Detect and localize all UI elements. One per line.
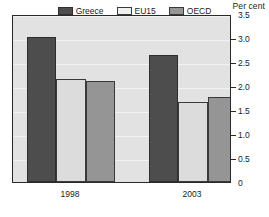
legend-swatch-icon-eu15 (117, 7, 132, 15)
bar-eu15-1998 (56, 79, 85, 182)
chart-figure: Per cent 00.51.01.52.02.53.03.5 19982003… (0, 0, 269, 217)
bar-greece-2003 (149, 55, 178, 182)
legend-swatch-icon-oecd (169, 7, 184, 15)
y-axis-tick (231, 63, 236, 64)
y-axis-tick (231, 111, 236, 112)
legend-swatch-icon-greece (58, 7, 73, 15)
bar-oecd-1998 (86, 81, 115, 182)
gridline (13, 16, 230, 17)
y-axis-label: 1.0 (238, 130, 250, 140)
y-axis-label: 2.5 (238, 58, 250, 68)
x-axis-label-2003: 2003 (183, 189, 202, 199)
plot-area (12, 15, 231, 183)
y-axis-label: 0 (238, 178, 243, 188)
y-axis-tick (231, 87, 236, 88)
bar-eu15-2003 (178, 102, 207, 182)
y-axis-tick (231, 135, 236, 136)
y-axis-label: 3.0 (238, 34, 250, 44)
bar-greece-1998 (27, 37, 56, 182)
y-axis-label: 1.5 (238, 106, 250, 116)
y-axis-label: 0.5 (238, 154, 250, 164)
bar-oecd-2003 (208, 97, 231, 182)
y-axis-tick (231, 39, 236, 40)
y-axis-tick (231, 159, 236, 160)
x-axis-label-1998: 1998 (61, 189, 80, 199)
y-axis-label: 2.0 (238, 82, 250, 92)
y-axis-label: 3.5 (238, 10, 250, 20)
